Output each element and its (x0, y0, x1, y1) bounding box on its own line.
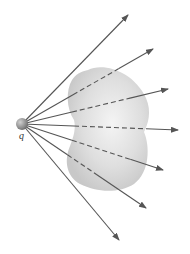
gauss-law-diagram: q (0, 0, 190, 254)
closed-surface (67, 67, 149, 190)
charge-label: q (19, 130, 24, 141)
point-charge (16, 118, 28, 130)
field-lines (22, 15, 178, 240)
